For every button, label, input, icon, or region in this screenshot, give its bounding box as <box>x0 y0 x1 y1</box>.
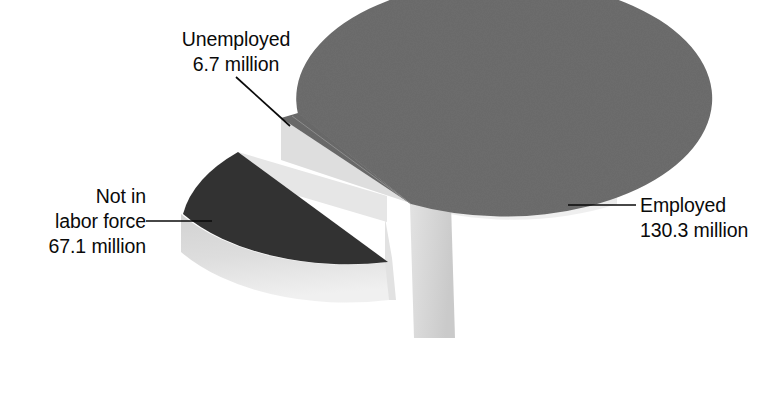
leader-line-unemployed <box>236 77 290 126</box>
employed-label-name: Employed <box>640 193 768 218</box>
unemployed-label-name: Unemployed <box>160 27 312 52</box>
notinlabor-label-name-line1: Not in <box>18 184 146 209</box>
slice-label-not-in-labor-force: Not in labor force 67.1 million <box>18 184 146 259</box>
employed-label-value: 130.3 million <box>640 218 768 243</box>
notinlabor-label-name-line2: labor force <box>18 209 146 234</box>
slice-label-unemployed: Unemployed 6.7 million <box>160 27 312 77</box>
notinlabor-label-value: 67.1 million <box>18 234 146 259</box>
slice-label-employed: Employed 130.3 million <box>640 193 768 243</box>
pie-chart-figure: Unemployed 6.7 million Not in labor forc… <box>0 0 771 402</box>
unemployed-label-value: 6.7 million <box>160 52 312 77</box>
